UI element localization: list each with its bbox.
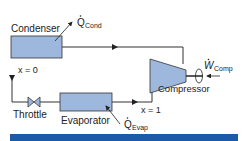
dot-icon (208, 59, 210, 61)
condenser-box (11, 36, 62, 58)
condenser-label: Condenser (11, 23, 61, 34)
q-evap-subscript: Evap (132, 124, 148, 132)
throttle-valve-icon (28, 97, 34, 107)
state-x1-label: x = 1 (141, 105, 161, 115)
throttle-label: Throttle (13, 109, 47, 120)
q-cond-subscript: Cond (85, 22, 102, 29)
compressor-label: Compressor (158, 83, 210, 94)
flow-arrow-icon (112, 44, 118, 50)
w-comp-subscript: Comp (214, 65, 233, 73)
q-evap-symbol: Q (124, 119, 132, 130)
flow-arrow-icon (132, 99, 138, 105)
flow-arrow-icon (9, 75, 15, 81)
q-cond-symbol: Q (77, 17, 85, 28)
evaporator-box (60, 93, 112, 111)
refrigeration-cycle-diagram: Condenser Q Cond x = 0 W Comp Compressor… (0, 0, 244, 141)
dot-icon (80, 15, 82, 17)
state-x0-label: x = 0 (18, 65, 38, 75)
bottom-bar (10, 134, 238, 141)
dot-icon (127, 117, 129, 119)
evaporator-label: Evaporator (61, 115, 111, 126)
throttle-valve-icon (34, 97, 40, 107)
